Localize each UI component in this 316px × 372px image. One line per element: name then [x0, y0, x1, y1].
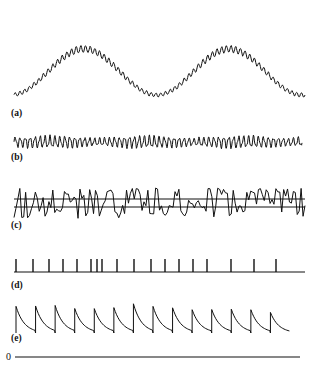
- panel-b: (b): [11, 135, 302, 163]
- waveform-trace-e: [16, 304, 289, 333]
- zero-axis: 0: [6, 351, 300, 362]
- panel-c: (c): [11, 188, 305, 231]
- waveform-trace-c: [14, 188, 305, 218]
- panel-d: (d): [11, 259, 305, 291]
- panel-label-d: (d): [11, 280, 23, 291]
- panel-label-e: (e): [11, 333, 22, 344]
- impulse-train-d: [16, 259, 276, 272]
- waveform-trace-a: [14, 46, 305, 97]
- panel-e: (e): [11, 304, 289, 344]
- panel-label-b: (b): [11, 152, 23, 163]
- panel-label-c: (c): [11, 220, 22, 231]
- zero-axis-label: 0: [6, 351, 11, 362]
- waveform-trace-b: [14, 135, 302, 149]
- figure-root: (a) (b) (c) (d) (e) 0: [0, 0, 316, 372]
- waveform-figure-svg: (a) (b) (c) (d) (e) 0: [0, 0, 316, 372]
- panel-label-a: (a): [11, 108, 22, 119]
- panel-a: (a): [11, 46, 305, 119]
